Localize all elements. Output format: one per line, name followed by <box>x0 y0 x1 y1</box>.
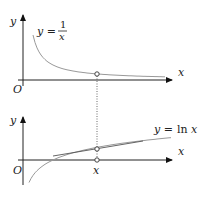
ln-eq-func: ln <box>177 123 188 136</box>
ln-eq-lhs: y = <box>153 123 173 136</box>
top-y-label: y <box>9 15 17 28</box>
bottom-origin-label: O <box>13 164 22 177</box>
reciprocal-curve <box>33 35 165 77</box>
bottom-x-label: x <box>178 145 185 158</box>
ln-eq-arg: x <box>191 123 198 136</box>
bottom-panel: y x O x y = ln x <box>9 114 198 185</box>
axis-point <box>95 158 99 162</box>
ln-point <box>95 147 99 151</box>
point-x-label: x <box>93 164 100 177</box>
reciprocal-eq-denominator: x <box>59 31 65 42</box>
top-origin-label: O <box>13 83 22 96</box>
reciprocal-eq-numerator: 1 <box>60 19 66 30</box>
top-x-label: x <box>178 66 185 79</box>
figure: y x O y = 1 x y x O x y = ln x <box>0 0 203 197</box>
top-point <box>95 72 99 76</box>
reciprocal-eq-lhs: y = <box>36 25 56 38</box>
bottom-y-label: y <box>9 114 17 127</box>
